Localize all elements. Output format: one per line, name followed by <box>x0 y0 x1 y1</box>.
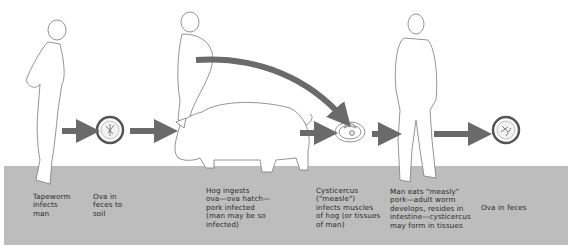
man-figure-2 <box>178 12 213 122</box>
man-figure-3 <box>395 14 436 182</box>
label-tapeworm-infects-man: Tapeworm infects man <box>33 193 71 218</box>
cysticercus-cyst <box>335 122 365 142</box>
label-man-eats-measly-pork: Man eats "measly" pork—adult worm develo… <box>390 188 471 230</box>
ova-egg-1 <box>97 117 123 143</box>
ova-egg-2 <box>493 117 519 143</box>
life-cycle-illustration <box>0 0 578 252</box>
pig <box>175 102 312 172</box>
label-ova-in-feces: Ova in feces <box>481 204 527 212</box>
man-figure-1 <box>26 20 66 184</box>
label-cysticercus: Cysticercus ("measle") infects muscles o… <box>316 187 380 229</box>
label-hog-ingests: Hog ingests ova—ova hatch— pork infected… <box>206 187 270 229</box>
label-ova-feces-soil: Ova in feces to soil <box>93 193 122 218</box>
